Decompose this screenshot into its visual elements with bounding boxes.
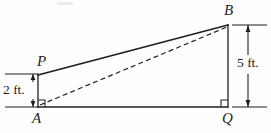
right-dim-arrowhead-down — [246, 100, 251, 107]
vertex-label-a: A — [32, 111, 41, 126]
right-dim-arrowhead-up — [246, 25, 251, 32]
right-angle-marker-q — [221, 100, 228, 107]
dimension-label-right-height: 5 ft. — [237, 56, 259, 70]
dimension-label-left-height: 2 ft. — [3, 83, 25, 97]
vertex-label-b: B — [224, 3, 233, 18]
geometry-figure: P B A Q 2 ft. 5 ft. — [0, 0, 271, 133]
left-dim-arrowhead-up — [31, 74, 36, 80]
vertex-label-q: Q — [222, 111, 233, 126]
vertex-label-p: P — [37, 54, 46, 69]
segment-AB-dashed-line — [40, 27, 227, 105]
segment-PB-line — [38, 25, 228, 75]
left-dim-arrowhead-down — [31, 101, 36, 107]
